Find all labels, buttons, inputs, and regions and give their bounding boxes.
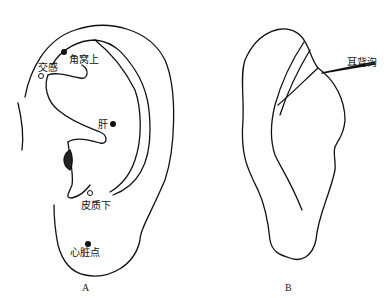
panel-caption-a: A [82, 282, 89, 293]
label-pizhixia: 皮质下 [81, 201, 111, 211]
label-gan: 肝 [98, 120, 108, 130]
point-marker-jiaowoshang [61, 49, 67, 55]
label-jiaogan: 交感 [38, 63, 58, 73]
ear-diagram [0, 0, 392, 298]
panel-caption-b: B [285, 282, 292, 293]
label-erbeigou: 耳背沟 [347, 58, 377, 68]
label-xinzangdian: 心脏点 [70, 248, 100, 258]
label-jiaowoshang: 角窝上 [69, 55, 99, 65]
